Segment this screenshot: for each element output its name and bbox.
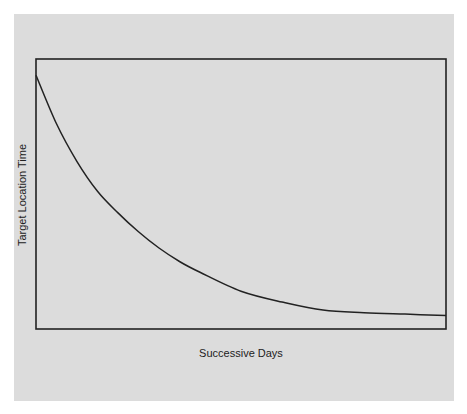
- y-axis-label-text: Target Location Time: [16, 144, 28, 246]
- plot-frame: [36, 59, 446, 329]
- x-axis-label: Successive Days: [36, 347, 446, 359]
- learning-curve-line: [36, 75, 446, 315]
